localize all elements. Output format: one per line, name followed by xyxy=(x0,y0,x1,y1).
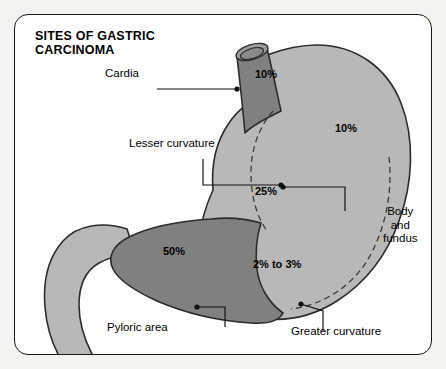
figure-panel: SITES OF GASTRIC CARCINOMA Cardia Lesser… xyxy=(14,14,432,355)
stomach-diagram xyxy=(15,15,432,355)
label-pyloric-area: Pyloric area xyxy=(107,321,168,334)
percent-greater-curvature: 2% to 3% xyxy=(253,258,301,270)
figure-title: SITES OF GASTRIC CARCINOMA xyxy=(35,29,155,57)
percent-body-fundus: 10% xyxy=(335,122,357,134)
label-greater-curvature: Greater curvature xyxy=(291,325,381,338)
label-lesser-curvature: Lesser curvature xyxy=(129,137,215,150)
percent-pyloric: 50% xyxy=(163,245,185,257)
percent-lesser-curvature: 25% xyxy=(255,185,277,197)
percent-cardia: 10% xyxy=(255,68,277,80)
label-body-and-fundus: Body and fundus xyxy=(383,205,418,246)
label-cardia: Cardia xyxy=(105,67,139,80)
